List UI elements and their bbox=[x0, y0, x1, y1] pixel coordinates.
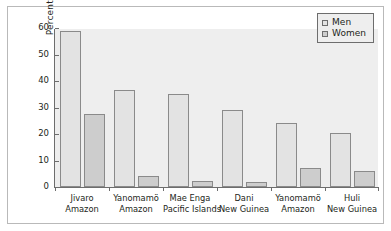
x-axis-label-line2: Amazon bbox=[55, 204, 109, 215]
y-tick-mark bbox=[55, 134, 59, 135]
y-tick-mark bbox=[55, 81, 59, 82]
legend-item-men: Men bbox=[322, 17, 366, 28]
x-axis-label: YanomamöAmazon bbox=[109, 193, 163, 214]
men-swatch bbox=[322, 20, 328, 26]
women-swatch bbox=[322, 31, 328, 37]
y-tick-label: 20 bbox=[38, 128, 49, 138]
y-tick-mark bbox=[55, 108, 59, 109]
y-tick-label: 50 bbox=[38, 49, 49, 59]
x-axis-label: DaniNew Guinea bbox=[217, 193, 271, 214]
bar-men-3 bbox=[222, 110, 243, 187]
y-tick-label: 10 bbox=[38, 155, 49, 165]
x-axis-label-line1: Jivaro bbox=[55, 193, 109, 204]
x-tick-mark bbox=[163, 187, 164, 191]
y-axis-title: Percentage bbox=[45, 0, 55, 69]
y-tick-mark bbox=[55, 28, 59, 29]
bar-men-5 bbox=[330, 133, 351, 187]
bar-men-2 bbox=[168, 94, 189, 187]
x-tick-mark bbox=[217, 187, 218, 191]
plot-inner: Percentage 0102030405060 JivaroAmazonYan… bbox=[55, 29, 378, 187]
y-tick-label: 60 bbox=[38, 22, 49, 32]
x-axis-label-line2: Amazon bbox=[109, 204, 163, 215]
bar-men-0 bbox=[60, 31, 81, 187]
x-tick-mark bbox=[325, 187, 326, 191]
y-tick-mark bbox=[55, 55, 59, 56]
bar-women-1 bbox=[138, 176, 159, 187]
plot-area: Percentage 0102030405060 JivaroAmazonYan… bbox=[54, 29, 378, 188]
y-tick-label: 40 bbox=[38, 75, 49, 85]
x-tick-mark bbox=[55, 187, 56, 191]
bar-women-2 bbox=[192, 181, 213, 187]
bar-women-0 bbox=[84, 114, 105, 187]
x-axis-label: Mae EngaPacific Islands bbox=[163, 193, 217, 214]
legend-item-women: Women bbox=[322, 28, 366, 39]
y-tick-label: 0 bbox=[44, 181, 49, 191]
x-axis-label-line2: New Guinea bbox=[325, 204, 379, 215]
x-axis-label-line1: Yanomamö bbox=[271, 193, 325, 204]
legend-item-label: Women bbox=[332, 28, 366, 39]
legend-item-label: Men bbox=[332, 17, 351, 28]
x-axis-label: HuliNew Guinea bbox=[325, 193, 379, 214]
bar-women-3 bbox=[246, 182, 267, 187]
bar-men-4 bbox=[276, 123, 297, 187]
x-axis-label-line1: Dani bbox=[217, 193, 271, 204]
x-axis-label: YanomamöAmazon bbox=[271, 193, 325, 214]
x-axis-label-line2: Pacific Islands bbox=[163, 204, 217, 215]
x-axis-label-line2: New Guinea bbox=[217, 204, 271, 215]
x-axis-label-line2: Amazon bbox=[271, 204, 325, 215]
bar-women-4 bbox=[300, 168, 321, 187]
figure-frame: Percentage 0102030405060 JivaroAmazonYan… bbox=[7, 6, 384, 224]
x-axis-label-line1: Mae Enga bbox=[163, 193, 217, 204]
x-tick-mark bbox=[109, 187, 110, 191]
x-axis-label-line1: Yanomamö bbox=[109, 193, 163, 204]
chart-legend: MenWomen bbox=[317, 13, 374, 43]
y-tick-label: 30 bbox=[38, 102, 49, 112]
x-tick-mark bbox=[378, 187, 379, 191]
x-axis-label: JivaroAmazon bbox=[55, 193, 109, 214]
chart-figure: Percentage 0102030405060 JivaroAmazonYan… bbox=[0, 0, 391, 231]
bar-men-1 bbox=[114, 90, 135, 187]
x-tick-mark bbox=[271, 187, 272, 191]
x-axis-label-line1: Huli bbox=[325, 193, 379, 204]
bar-women-5 bbox=[354, 171, 375, 187]
y-tick-mark bbox=[55, 161, 59, 162]
